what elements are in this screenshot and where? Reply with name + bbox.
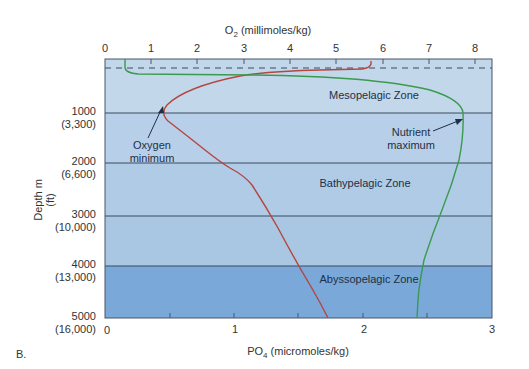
top-axis-labels: 0 1 2 3 4 5 6 7 8 bbox=[102, 42, 478, 54]
svg-text:(ft): (ft) bbox=[44, 193, 56, 206]
svg-text:4: 4 bbox=[287, 42, 293, 54]
svg-text:8: 8 bbox=[472, 42, 478, 54]
svg-text:(16,000): (16,000) bbox=[55, 323, 96, 335]
svg-text:(6,600): (6,600) bbox=[61, 168, 96, 180]
bathypelagic-band-lower bbox=[105, 216, 492, 266]
svg-text:2: 2 bbox=[361, 323, 367, 335]
svg-text:4000: 4000 bbox=[72, 258, 96, 270]
svg-text:5000: 5000 bbox=[72, 310, 96, 322]
bathypelagic-band-mid bbox=[105, 163, 492, 216]
svg-text:(3,300): (3,300) bbox=[61, 118, 96, 130]
zone-label-bathypelagic: Bathypelagic Zone bbox=[319, 177, 410, 189]
svg-text:Depth m: Depth m bbox=[32, 179, 44, 221]
svg-text:1: 1 bbox=[232, 323, 238, 335]
zone-label-abyssopelagic: Abyssopelagic Zone bbox=[319, 273, 418, 285]
svg-text:0: 0 bbox=[104, 324, 110, 336]
svg-text:3000: 3000 bbox=[72, 208, 96, 220]
abyssopelagic-band bbox=[105, 266, 492, 318]
svg-text:0: 0 bbox=[102, 42, 108, 54]
svg-text:7: 7 bbox=[426, 42, 432, 54]
svg-text:minimum: minimum bbox=[130, 152, 175, 164]
svg-text:Oxygen: Oxygen bbox=[133, 139, 171, 151]
svg-text:5: 5 bbox=[333, 42, 339, 54]
top-axis-title: O2 (millimoles/kg) bbox=[225, 24, 311, 39]
svg-text:1000: 1000 bbox=[72, 105, 96, 117]
svg-text:(13,000): (13,000) bbox=[55, 271, 96, 283]
svg-text:1: 1 bbox=[148, 42, 154, 54]
svg-text:2000: 2000 bbox=[72, 155, 96, 167]
figure-label: B. bbox=[16, 348, 26, 360]
svg-text:2: 2 bbox=[194, 42, 200, 54]
zone-label-mesopelagic: Mesopelagic Zone bbox=[329, 89, 419, 101]
svg-text:3: 3 bbox=[241, 42, 247, 54]
svg-text:3: 3 bbox=[489, 323, 495, 335]
surface-band bbox=[105, 59, 492, 113]
y-axis-labels: 1000 (3,300) 2000 (6,600) 3000 (10,000) … bbox=[55, 105, 96, 335]
y-axis-title: Depth m (ft) bbox=[32, 179, 56, 221]
svg-text:Nutrient: Nutrient bbox=[392, 126, 431, 138]
svg-text:maximum: maximum bbox=[387, 139, 435, 151]
bottom-axis-labels: 0 1 2 3 bbox=[104, 323, 495, 336]
bottom-axis-title: PO4 (micromoles/kg) bbox=[247, 345, 349, 360]
chart-figure: 0 1 2 3 4 5 6 7 8 O2 (millimoles/kg) 0 1… bbox=[0, 0, 529, 369]
svg-text:(10,000): (10,000) bbox=[55, 221, 96, 233]
svg-text:6: 6 bbox=[380, 42, 386, 54]
